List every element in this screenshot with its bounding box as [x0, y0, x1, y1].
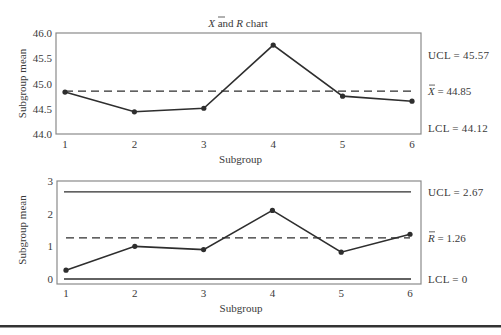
- x-tick-label: 5: [338, 287, 344, 299]
- x-tick-label: 2: [132, 138, 138, 150]
- y-tick-label: 0: [48, 273, 54, 285]
- plot-frame: [57, 181, 421, 284]
- y-tick-label: 3: [48, 175, 54, 187]
- data-point: [62, 89, 67, 94]
- ucl-label: UCL = 2.67: [428, 186, 484, 198]
- plot-frame: [56, 33, 421, 134]
- x-tick-label: 6: [407, 287, 413, 299]
- data-point: [201, 106, 206, 111]
- data-point: [271, 43, 276, 48]
- y-tick-label: 45.5: [33, 52, 53, 64]
- lcl-label: LCL = 44.12: [428, 122, 488, 134]
- ucl-label: UCL = 45.57: [428, 49, 490, 61]
- data-point: [201, 247, 206, 252]
- chart-title: X and R chart: [207, 17, 268, 29]
- center-value: = 1.26: [435, 232, 466, 244]
- x-tick-label: 4: [270, 287, 276, 299]
- center-line-label: X = 44.85: [427, 85, 472, 97]
- y-tick-label: 45.0: [33, 78, 53, 90]
- y-tick-label: 1: [48, 240, 54, 252]
- y-axis-label: Subgroup mean: [16, 48, 28, 118]
- y-tick-label: 2: [48, 208, 54, 220]
- x-tick-label: 3: [201, 287, 207, 299]
- y-tick-label: 46.0: [33, 27, 53, 39]
- xbar-chart: 44.044.545.045.546.0123456SubgroupSubgro…: [16, 27, 490, 165]
- x-tick-label: 3: [201, 138, 207, 150]
- data-point: [270, 208, 275, 213]
- separator-rule: [0, 325, 501, 328]
- data-point: [132, 109, 137, 114]
- y-tick-label: 44.0: [33, 128, 53, 140]
- title-and: and: [215, 17, 236, 29]
- data-point: [63, 268, 68, 273]
- x-axis-label: Subgroup: [219, 153, 262, 165]
- lcl-label: LCL = 0: [428, 273, 468, 285]
- data-point: [340, 94, 345, 99]
- data-point: [132, 244, 137, 249]
- x-tick-label: 1: [63, 287, 69, 299]
- xbar-r-chart-figure: X and R chart 44.044.545.045.546.0123456…: [0, 0, 501, 335]
- x-tick-label: 4: [270, 138, 276, 150]
- data-line: [65, 45, 412, 112]
- center-line-label: R = 1.26: [427, 232, 466, 244]
- data-line: [66, 210, 410, 270]
- x-tick-label: 2: [132, 287, 138, 299]
- y-tick-label: 44.5: [33, 103, 53, 115]
- x-tick-label: 1: [62, 138, 68, 150]
- r-chart: 0123123456SubgroupSubgroup meanUCL = 2.6…: [16, 175, 484, 314]
- data-point: [407, 232, 412, 237]
- y-axis-label: Subgroup mean: [16, 195, 28, 265]
- x-tick-label: 6: [409, 138, 415, 150]
- data-point: [339, 250, 344, 255]
- data-point: [409, 99, 414, 104]
- center-value: = 44.85: [435, 85, 472, 97]
- x-axis-label: Subgroup: [220, 302, 263, 314]
- x-tick-label: 5: [340, 138, 346, 150]
- title-suffix: chart: [243, 17, 268, 29]
